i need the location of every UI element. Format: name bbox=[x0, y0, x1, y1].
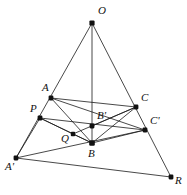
vertex-label-q: Q bbox=[61, 133, 69, 144]
vertex-label-ap: A' bbox=[5, 161, 14, 172]
vertex-dot-p bbox=[38, 116, 43, 121]
vertex-dot-c bbox=[134, 105, 139, 110]
segment-ap-cp bbox=[16, 130, 145, 158]
vertex-label-o: O bbox=[98, 5, 106, 16]
geometry-diagram: OACPB'C'QBA'R bbox=[0, 0, 187, 195]
vertex-label-cp: C' bbox=[150, 115, 160, 126]
vertex-label-p: P bbox=[30, 103, 37, 114]
segment-q-b bbox=[73, 134, 92, 143]
vertex-label-b: B bbox=[88, 148, 95, 159]
segment-p-ap bbox=[16, 118, 40, 158]
vertex-dot-q bbox=[71, 132, 75, 136]
vertex-label-bp: B' bbox=[97, 110, 106, 121]
vertex-dot-bp bbox=[90, 124, 95, 129]
vertex-label-r: R bbox=[175, 175, 182, 186]
segment-o-r bbox=[92, 23, 171, 177]
vertex-dot-b bbox=[89, 140, 95, 146]
vertex-label-c: C bbox=[141, 92, 148, 103]
vertex-dot-ap bbox=[14, 156, 19, 161]
vertex-label-a: A bbox=[42, 82, 49, 93]
vertex-dot-cp bbox=[143, 128, 148, 133]
vertex-dot-a bbox=[49, 96, 54, 101]
diagram-canvas bbox=[0, 0, 187, 195]
segment-ap-r bbox=[16, 158, 171, 177]
vertex-dot-r bbox=[169, 175, 174, 180]
vertex-dot-o bbox=[89, 20, 94, 25]
